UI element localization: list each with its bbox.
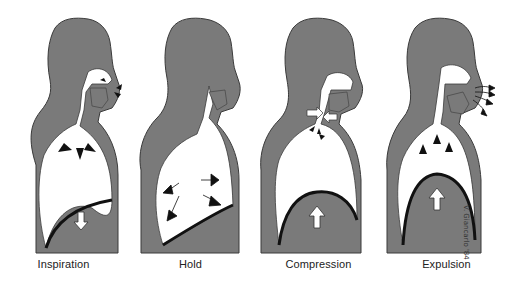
caption-expulsion: Expulsion xyxy=(383,258,510,270)
panel-expulsion: Expulsion xyxy=(383,0,510,288)
caption-inspiration: Inspiration xyxy=(0,258,127,270)
caption-hold: Hold xyxy=(127,258,254,270)
inspiration-figure xyxy=(0,0,127,260)
panel-hold: Hold xyxy=(127,0,254,288)
panel-inspiration: Inspiration xyxy=(0,0,127,288)
artist-signature: V. Giancarlo '84 xyxy=(462,205,470,260)
panel-compression: Compression xyxy=(255,0,382,288)
expulsion-figure xyxy=(383,0,510,260)
compression-figure xyxy=(255,0,382,260)
hold-figure xyxy=(127,0,254,260)
caption-compression: Compression xyxy=(255,258,382,270)
